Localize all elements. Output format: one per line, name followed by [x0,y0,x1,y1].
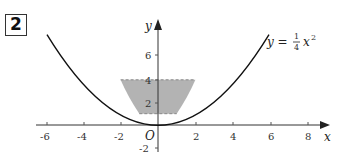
y-tick-label: 4 [145,75,151,86]
svg-text:2: 2 [311,33,316,42]
x-tick-label: 8 [305,131,311,142]
origin-label: O [145,129,155,143]
x-tick-label: -4 [77,131,87,142]
y-tick-label: 2 [145,98,151,109]
svg-text:1: 1 [294,32,299,41]
svg-text:y =: y = [266,35,288,49]
x-tick-label: -2 [114,131,124,142]
x-tick-label: 2 [193,131,199,142]
x-tick-label: 6 [268,131,274,142]
svg-text:4: 4 [294,43,299,52]
y-tick-label: 6 [145,50,151,61]
equation-label: y = 1 4 x 2 [266,32,316,52]
y-axis-arrow-icon [154,19,162,30]
x-axis-arrow-icon [320,121,330,129]
x-axis-label: x [324,130,331,144]
x-tick-label: -6 [40,131,50,142]
y-axis-label: y [144,19,152,33]
y-tick-label: -2 [139,143,149,154]
x-tick-label: 4 [230,131,236,142]
parabola-chart: -6 -4 -2 2 4 6 8 6 4 2 -2 O x y y = 1 4 … [0,0,337,156]
svg-text:x: x [303,35,310,49]
